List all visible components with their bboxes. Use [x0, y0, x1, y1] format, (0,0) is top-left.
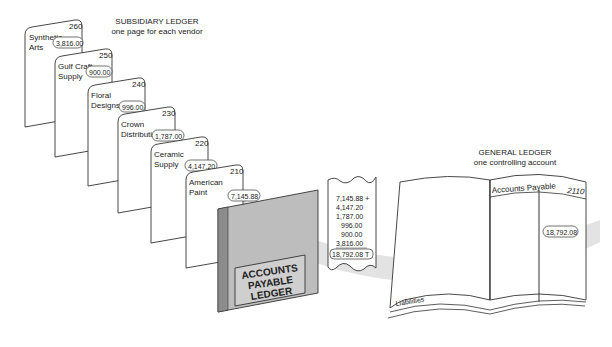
page-account-number: 220 [195, 139, 209, 148]
tape-line: 3,816.00 [336, 240, 363, 247]
page-vendor-name: Designs [91, 101, 120, 110]
page-account-number: 230 [162, 109, 176, 118]
account-number: 2110 [566, 186, 585, 197]
ledger-diagram: Synthetic Arts 260 3,816.00 Gulf Craft S… [0, 0, 612, 347]
page-account-number: 260 [69, 22, 83, 31]
accounts-payable-binder: ACCOUNTS PAYABLE LEDGER [218, 190, 318, 312]
page-vendor-name: Arts [29, 43, 43, 52]
page-amount: 4,147.20 [188, 163, 215, 170]
page-account-number: 250 [99, 51, 113, 60]
page-amount: 7,145.88 [231, 193, 258, 200]
page-vendor-name: Crown [121, 120, 144, 129]
page-amount: 900.00 [89, 69, 111, 76]
tape-line: 7,145.88 + [336, 195, 369, 202]
page-vendor-name: Ceramic [154, 150, 184, 159]
page-vendor-name: Floral [91, 91, 111, 100]
tape-line: 900.00 [341, 231, 363, 238]
page-vendor-name: American [189, 178, 223, 187]
tape-line: 1,787.00 [336, 213, 363, 220]
tape-line: 996.00 [341, 222, 363, 229]
tape-total: 18,792.08 T [332, 251, 370, 258]
page-amount: 996.00 [122, 104, 144, 111]
page-vendor-name: Paint [189, 188, 208, 197]
page-account-number: 240 [132, 80, 146, 89]
tape-line: 4,147.20 [336, 204, 363, 211]
page-vendor-name: Supply [154, 160, 178, 169]
account-balance: 18,792.08 [546, 229, 577, 236]
page-vendor-name: Supply [58, 72, 82, 81]
page-amount: 3,816.00 [56, 40, 83, 47]
page-account-number: 210 [230, 167, 244, 176]
general-ledger-book: Accounts Payable 2110 18,792.08 Liabilit… [388, 174, 586, 318]
page-amount: 1,787.00 [155, 133, 182, 140]
adding-machine-tape: 7,145.88 + 4,147.20 1,787.00 996.00 900.… [328, 177, 376, 271]
